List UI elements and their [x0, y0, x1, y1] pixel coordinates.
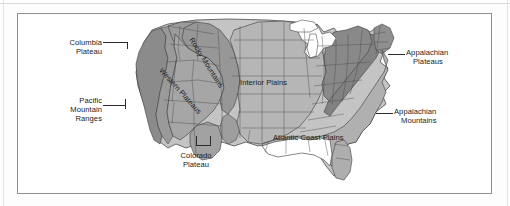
label-line: Atlantic Coast Plains	[273, 133, 344, 142]
label-line: Ranges	[76, 114, 102, 123]
label-line: Mountains	[401, 116, 437, 125]
map-frame: ColumbiaPlateau PacificMountainRanges Ro…	[17, 13, 492, 194]
label-line: Columbia	[70, 38, 102, 47]
label-line: Plateau	[183, 160, 209, 169]
page-edge-top	[0, 3, 510, 4]
leader-colorado-tick	[196, 136, 197, 146]
map-page: ColumbiaPlateau PacificMountainRanges Ro…	[0, 0, 510, 206]
label-atlantic-coast-plains: Atlantic Coast Plains	[273, 133, 344, 142]
leader-columbia-plateau-tick	[127, 42, 128, 49]
label-columbia-plateau: ColumbiaPlateau	[42, 38, 102, 56]
leader-appalachian-mountains	[376, 113, 393, 114]
region-new-england	[374, 24, 394, 54]
label-appalachian-plateaus: AppalachianPlateaus	[406, 48, 448, 66]
leader-colorado-tick2	[210, 136, 211, 146]
label-colorado-plateau: ColoradoPlateau	[168, 151, 224, 169]
label-interior-plains: Interior Plains	[240, 78, 287, 87]
leader-pacific-mountain-ranges	[103, 105, 125, 106]
label-line: Appalachian	[406, 48, 448, 57]
label-line: Mountain	[70, 105, 102, 114]
label-line: Colorado	[180, 151, 211, 160]
label-line: Plateaus	[413, 57, 443, 66]
label-line: Appalachian	[394, 107, 436, 116]
label-line: Pacific	[79, 96, 102, 105]
leader-colorado-plateau	[196, 145, 210, 146]
label-appalachian-mountains: AppalachianMountains	[394, 107, 437, 125]
page-edge-left	[3, 0, 4, 206]
leader-appalachian-plateaus	[388, 54, 405, 55]
leader-pacific-tick	[125, 99, 126, 109]
leader-columbia-plateau	[103, 42, 127, 43]
page-edge-right	[507, 0, 508, 206]
label-line: Interior Plains	[240, 78, 287, 87]
label-pacific-mountain-ranges: PacificMountainRanges	[36, 96, 102, 124]
label-line: Plateau	[76, 47, 102, 56]
